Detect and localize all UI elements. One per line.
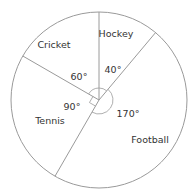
slice-label-cricket: Cricket bbox=[37, 39, 70, 50]
angle-label-hockey: 40° bbox=[105, 64, 122, 75]
slice-label-tennis: Tennis bbox=[34, 115, 65, 126]
pie-chart: Hockey40°Football170°Tennis90°Cricket60° bbox=[0, 0, 191, 194]
slice-label-hockey: Hockey bbox=[99, 28, 134, 39]
angle-label-football: 170° bbox=[117, 108, 140, 119]
slice-label-football: Football bbox=[131, 134, 169, 145]
angle-label-cricket: 60° bbox=[71, 71, 88, 82]
angle-label-tennis: 90° bbox=[64, 101, 81, 112]
